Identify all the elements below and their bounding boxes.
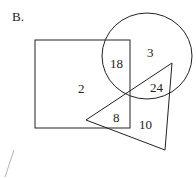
venn-diagram: B. 2 18 3 24 8 10 [0, 0, 196, 178]
region-square-circle: 18 [110, 56, 123, 71]
triangle-set [86, 63, 172, 150]
region-square-triangle: 8 [113, 110, 120, 125]
region-triangle-only: 10 [139, 117, 152, 132]
diagram-title: B. [12, 9, 24, 24]
region-circle-triangle: 24 [150, 80, 164, 95]
region-circle-only: 3 [147, 45, 154, 60]
region-square-only: 2 [78, 81, 85, 96]
stray-line [5, 150, 14, 177]
